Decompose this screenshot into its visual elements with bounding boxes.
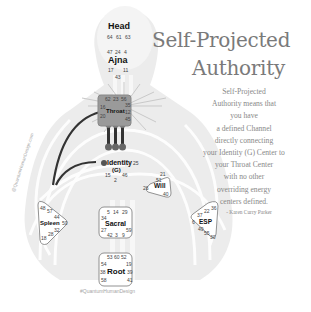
gate: 22 — [204, 209, 210, 214]
quote-line: you have — [180, 110, 308, 122]
gate: 3 — [115, 233, 118, 238]
gate: 29 — [122, 210, 128, 215]
root-center-label: Root — [107, 268, 125, 276]
identity-center-label: Identity — [107, 159, 132, 166]
will-center-label: Will — [154, 183, 166, 190]
gate: 12 — [125, 110, 131, 115]
sacral-center-label: Sacral — [105, 220, 126, 227]
gate: 32 — [54, 228, 60, 233]
gate: 42 — [107, 233, 113, 238]
title-line-1: Self-Projected — [152, 30, 290, 50]
gate: 57 — [47, 209, 53, 214]
gate: 9 — [122, 233, 125, 238]
gate: 23 — [113, 97, 119, 102]
head-center-label: Head — [108, 22, 130, 31]
gate: 63 — [125, 35, 131, 40]
quote-line: your Throat Center — [180, 159, 308, 171]
gate: 19 — [126, 262, 132, 267]
title-line-2: Authority — [192, 58, 285, 78]
gate: 35 — [125, 103, 131, 108]
gate: 2 — [114, 178, 117, 183]
gate: 27 — [101, 228, 107, 233]
gate: 36 — [211, 206, 217, 211]
gate: 58 — [101, 278, 107, 283]
gate: 17 — [108, 68, 114, 73]
gate: 43 — [115, 75, 121, 80]
throat-center-label: Throat — [106, 108, 125, 114]
ajna-center-label: Ajna — [108, 56, 128, 65]
gate: 16 — [100, 105, 106, 110]
gate: 61 — [116, 35, 122, 40]
gate: 41 — [127, 278, 133, 283]
gate: 15 — [105, 173, 111, 178]
gate: 38 — [100, 270, 106, 275]
gate: 25 — [133, 161, 139, 166]
gate: 55 — [204, 231, 210, 236]
quote-line: a defined Channel — [180, 123, 308, 135]
gate: 49 — [198, 227, 204, 232]
gate: 45 — [125, 117, 131, 122]
quote-block: Self-Projected Authority means that you … — [180, 86, 308, 216]
identity-center-sublabel: (G) — [112, 167, 121, 173]
gate: 14 — [113, 210, 119, 215]
quote-line: with no other — [180, 171, 308, 183]
gate: 60 — [114, 255, 120, 260]
gate: 39 — [127, 270, 133, 275]
bottom-watermark: #QuantumHumanDesign — [80, 288, 135, 294]
gate: 59 — [126, 228, 132, 233]
quote-line: your Identity (G) Center to — [180, 147, 308, 159]
spleen-center-label: Spleen — [40, 220, 60, 226]
gate: 6 — [192, 220, 195, 225]
quote-line: Authority means that — [180, 98, 308, 110]
gate: 53 — [107, 255, 113, 260]
gate: 64 — [107, 35, 113, 40]
gate: 46 — [122, 173, 128, 178]
quote-line: directly connecting — [180, 135, 308, 147]
gate: 40 — [163, 192, 169, 197]
gate: 30 — [210, 235, 216, 240]
gate: 5 — [107, 210, 110, 215]
gate: 11 — [123, 68, 128, 73]
gate: 18 — [41, 236, 47, 241]
gate: 48 — [40, 206, 46, 211]
quote-line: centers defined. — [180, 196, 308, 208]
gate: 28 — [48, 232, 54, 237]
gate: 52 — [121, 255, 127, 260]
gate: 26 — [143, 186, 149, 191]
quote-line: Self-Projected — [180, 86, 308, 98]
gate: 54 — [101, 262, 107, 267]
gate: 20 — [100, 114, 106, 119]
quote-line: overriding energy — [180, 184, 308, 196]
esp-center-label: ESP — [199, 219, 212, 226]
gate: 62 — [105, 97, 111, 102]
gate: 50 — [62, 221, 68, 226]
